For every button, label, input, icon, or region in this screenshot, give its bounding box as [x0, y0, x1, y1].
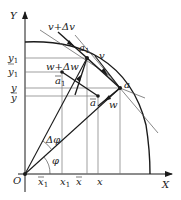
vector-v — [87, 58, 120, 88]
vector-w-plus-dw — [62, 72, 98, 96]
x-tick-x: x — [97, 176, 103, 187]
label-abar1: a1 — [55, 75, 65, 88]
x-tick-xbar1: x1 — [38, 176, 48, 189]
label-v-plus-dv: v+Δv — [48, 21, 75, 32]
angle-phi-arc — [44, 157, 50, 174]
radius-to-a — [25, 88, 120, 174]
label-a: a — [124, 79, 130, 90]
point-abar — [96, 94, 100, 98]
label-delta-phi: Δφ — [45, 134, 60, 145]
x-axis-label: X — [161, 179, 170, 190]
label-v: v — [99, 50, 105, 61]
y-tick-labels: y1 y1 y y — [7, 52, 18, 103]
y-tick-y1: y1 — [7, 52, 18, 65]
label-phi: φ — [52, 155, 59, 166]
y-tick-ybar: y — [10, 92, 17, 103]
x-projection-lines — [62, 58, 120, 174]
x-tick-x1: x1 — [60, 176, 70, 189]
x-tick-labels: x1 x1 x x — [38, 176, 103, 189]
x-tick-xbar: x — [76, 176, 82, 187]
origin-label: O — [13, 175, 21, 186]
point-a1 — [85, 56, 89, 60]
origin-point — [23, 172, 27, 176]
kinematics-diagram: Y X O y1 y1 — [0, 0, 181, 200]
point-a — [118, 86, 122, 90]
y-axis-label: Y — [10, 10, 18, 21]
label-abar: a — [90, 97, 96, 108]
label-w-plus-dw: w+Δw — [46, 61, 79, 72]
y-tick-ybar1: y1 — [7, 66, 18, 79]
label-w: w — [109, 99, 118, 110]
